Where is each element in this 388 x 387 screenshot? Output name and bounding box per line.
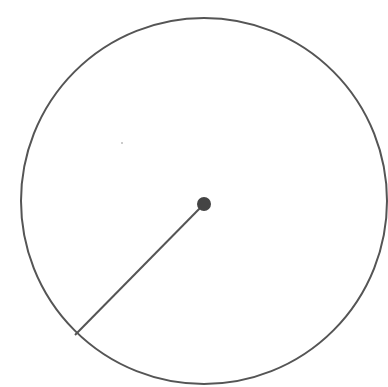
speck-mark <box>121 142 123 144</box>
circle-diagram <box>0 0 388 387</box>
radius-line <box>75 204 204 335</box>
center-point <box>197 197 211 211</box>
